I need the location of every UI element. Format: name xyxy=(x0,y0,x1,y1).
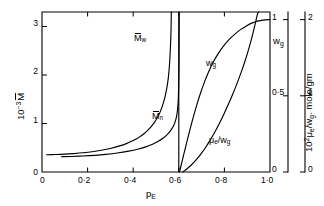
curve-elastic-chain-concentration xyxy=(183,12,259,172)
x-axis-title: pE xyxy=(146,189,156,200)
curve-label-wg-sub: g xyxy=(213,61,217,68)
xtick-label-3: 0·6 xyxy=(169,176,181,185)
x-axis-ticks xyxy=(88,168,225,173)
plot-canvas xyxy=(0,0,324,206)
right-outer-axis-title-units: . mole/gm xyxy=(303,73,314,115)
right-inner-ytick-label-2: 1 xyxy=(272,13,277,22)
left-axis-title-symbol: M xyxy=(16,93,26,101)
left-axis-title: 10−3 M xyxy=(16,93,26,120)
right-inner-axis-title-sub: g xyxy=(280,40,284,47)
right-outer-axis-title: 102μe/wg. mole/gm xyxy=(304,73,315,152)
right-outer-ytick-label-0: 0 xyxy=(308,165,313,174)
curve-label-mw-sub: w xyxy=(142,36,147,43)
left-ytick-label-3: 3 xyxy=(28,19,38,28)
left-axis-title-exponent: −3 xyxy=(15,102,22,110)
curve-m-number-average xyxy=(61,12,179,157)
xtick-label-2: 0·4 xyxy=(124,176,136,185)
top-axis-ticks xyxy=(88,12,225,17)
right-outer-axis-title-mu-sub: e xyxy=(308,128,315,132)
right-outer-axis-title-mu: μ xyxy=(303,132,314,137)
left-axis-title-prefix: 10 xyxy=(15,109,26,120)
curve-label-mu-divisor: /w xyxy=(218,135,227,145)
left-ytick-label-0: 0 xyxy=(28,168,38,177)
xtick-label-0: 0 xyxy=(40,176,45,185)
left-ytick-label-2: 2 xyxy=(28,67,38,76)
plot-frame xyxy=(42,12,270,172)
curve-label-mw-symbol: M xyxy=(134,34,142,43)
curve-m-weight-average xyxy=(47,12,172,155)
right-inner-axis-title: wg xyxy=(273,36,284,47)
right-outer-axis-title-exponent: 2 xyxy=(303,138,310,142)
curve-label-m-weight-average: Mw xyxy=(134,34,146,44)
figure-container: 0 0·2 0·4 0·6 0·8 1·0 pE 0 1 2 3 10−3 M … xyxy=(0,0,324,206)
right-inner-ytick-label-0: 0 xyxy=(272,165,277,174)
right-outer-axis-title-prefix: 10 xyxy=(303,141,314,152)
curve-label-m-number-average: Mn xyxy=(152,112,163,122)
curve-label-elastic-chain-concentration: μe/wg xyxy=(209,136,230,146)
xtick-label-4: 0·8 xyxy=(215,176,227,185)
left-ytick-label-1: 1 xyxy=(28,116,38,125)
right-outer-ytick-label-2: 2 xyxy=(308,13,313,22)
curve-label-mu-divisor-sub: g xyxy=(227,138,231,145)
curve-label-gel-weight-fraction: wg xyxy=(206,59,216,69)
xtick-label-5: 1·0 xyxy=(261,176,273,185)
left-axis-ticks xyxy=(42,27,47,124)
curve-label-mn-symbol: M xyxy=(152,112,160,121)
curve-gel-weight-fraction xyxy=(179,20,270,172)
right-inner-axis-title-base: w xyxy=(273,35,280,46)
right-outer-axis-title-divisor: /w xyxy=(303,119,314,129)
curve-label-mn-sub: n xyxy=(160,114,164,121)
right-outer-axis-title-divisor-sub: g xyxy=(308,115,315,119)
xtick-label-1: 0·2 xyxy=(78,176,90,185)
x-axis-title-sub: E xyxy=(151,193,156,200)
right-inner-ytick-label-1: 0·5 xyxy=(272,88,284,97)
